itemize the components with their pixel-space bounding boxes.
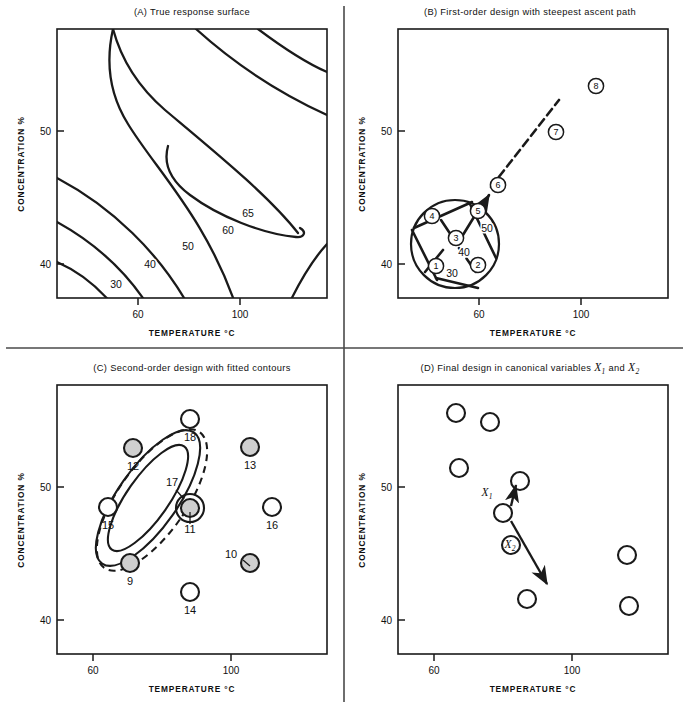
panel-a-title: (A) True response surface: [134, 7, 250, 17]
panel-c-yaxis-label: CONCENTRATION %: [16, 472, 26, 567]
panel-b-contour-label-30: 30: [446, 267, 458, 279]
panel-c-point-12: 12: [124, 439, 142, 472]
panel-c-point-13: 13: [241, 438, 259, 471]
figure-svg: (A) True response surface 50 40: [0, 0, 689, 708]
panel-b-contour-label-50: 50: [481, 222, 493, 234]
panel-b-point-6-label: 6: [495, 180, 500, 190]
panel-d-label-x2-sub: 2: [512, 544, 516, 553]
panel-b-xticklabel-60: 60: [473, 309, 485, 320]
panel-d-xaxis-label: TEMPERATURE °C: [490, 684, 577, 694]
panel-b-plot-frame: [398, 29, 668, 298]
panel-d-points: [447, 404, 638, 615]
panel-d-label-x1: X1: [481, 486, 493, 501]
panel-d-title-x2-sub: 2: [635, 367, 639, 376]
panel-c-point-11: 11: [181, 499, 199, 535]
panel-b-contour-label-40: 40: [458, 246, 470, 258]
panel-b-point-1-label: 1: [433, 261, 438, 271]
panel-d-yticklabel-50: 50: [381, 482, 393, 493]
panel-d-title: (D) Final design in canonical variables …: [420, 361, 639, 376]
panel-c-point-16: 16: [263, 498, 281, 531]
panel-c-point-17-label: 17: [166, 476, 178, 488]
panel-c-point-15: 15: [99, 498, 117, 531]
panel-b-point-3: 3: [448, 230, 463, 245]
panel-c-point-18-label: 18: [184, 431, 196, 443]
panel-c-point-10: 10: [225, 548, 259, 572]
panel-a-contour-label-40: 40: [144, 258, 156, 270]
panel-b-yticklabel-50: 50: [381, 126, 393, 137]
panel-c-xticklabel-100: 100: [223, 665, 240, 676]
panel-c-xticklabel-60: 60: [87, 665, 99, 676]
panel-c: (C) Second-order design with fitted cont…: [16, 363, 327, 694]
panel-d-title-and: and: [606, 363, 628, 373]
panel-d-point-1: [447, 404, 465, 422]
panel-c-point-14-label: 14: [184, 604, 196, 616]
panel-c-point-10-label: 10: [225, 548, 237, 560]
panel-b-point-5-label: 5: [475, 206, 480, 216]
panel-c-point-9: 9: [121, 554, 139, 587]
panel-b-point-3-label: 3: [453, 233, 458, 243]
panel-b-point-1: 1: [428, 258, 443, 273]
panel-d-point-3: [450, 459, 468, 477]
panel-a-contour-label-60: 60: [222, 224, 234, 236]
panel-a-xticklabel-60: 60: [132, 309, 144, 320]
panel-d-point-5: [494, 504, 512, 522]
panel-b-yaxis-label: CONCENTRATION %: [357, 116, 367, 211]
panel-a-xticklabel-100: 100: [232, 309, 249, 320]
panel-c-points: 18 12 13 15 16 9: [99, 410, 281, 616]
panel-b-point-6: 6: [490, 177, 505, 192]
panel-d-xticklabel-60: 60: [428, 665, 440, 676]
panel-b-point-5: 5: [470, 203, 485, 218]
panel-a-yticklabel-50: 50: [40, 126, 52, 137]
panel-a: (A) True response surface 50 40: [16, 7, 327, 338]
panel-b-point-8-label: 8: [593, 81, 598, 91]
panel-b-points: 1 2 3 4 5 6 7: [424, 78, 603, 273]
panel-d-xticklabel-100: 100: [564, 665, 581, 676]
panel-c-point-15-label: 15: [102, 519, 114, 531]
panel-a-plot-frame: [57, 29, 327, 298]
panel-c-yticklabel-40: 40: [40, 615, 52, 626]
panel-d-point-8: [518, 590, 536, 608]
panel-d-point-7: [618, 546, 636, 564]
panel-d: (D) Final design in canonical variables …: [357, 361, 668, 694]
panel-c-xaxis-label: TEMPERATURE °C: [149, 684, 236, 694]
panel-c-point-9-label: 9: [127, 575, 133, 587]
panel-b-point-7-label: 7: [553, 127, 558, 137]
panel-c-point-11-label: 11: [184, 523, 195, 535]
panel-c-yticklabel-50: 50: [40, 482, 52, 493]
panel-d-label-x1-sub: 1: [489, 492, 493, 501]
panel-b-point-2: 2: [470, 257, 485, 272]
panel-b-xticklabel-100: 100: [573, 309, 590, 320]
panel-d-yaxis-label: CONCENTRATION %: [357, 472, 367, 567]
panel-c-point-16-label: 16: [266, 519, 278, 531]
panel-a-contours: [57, 29, 327, 312]
panel-b-ascent-path: [491, 100, 559, 187]
panel-a-xaxis-label: TEMPERATURE °C: [149, 328, 236, 338]
panel-b: (B) First-order design with steepest asc…: [357, 7, 668, 338]
panel-c-point-18: 18: [181, 410, 199, 443]
panel-b-yticklabel-40: 40: [381, 259, 393, 270]
panel-d-point-4: [511, 472, 529, 490]
panel-b-point-4: 4: [424, 208, 439, 223]
panel-b-point-2-label: 2: [475, 260, 480, 270]
panel-b-xaxis-label: TEMPERATURE °C: [490, 328, 577, 338]
panel-b-point-4-label: 4: [429, 211, 434, 221]
panel-a-yaxis-label: CONCENTRATION %: [16, 116, 26, 211]
panel-c-point-13-label: 13: [244, 459, 256, 471]
panel-c-title: (C) Second-order design with fitted cont…: [93, 363, 290, 373]
panel-a-contour-label-50: 50: [182, 240, 194, 252]
panel-a-contour-label-30: 30: [110, 278, 122, 290]
panel-b-point-7: 7: [548, 124, 563, 139]
panel-b-point-8: 8: [588, 78, 603, 93]
panel-b-title: (B) First-order design with steepest asc…: [424, 7, 636, 17]
panel-d-point-2: [481, 413, 499, 431]
panel-a-yticklabel-40: 40: [40, 259, 52, 270]
panel-c-point-14: 14: [181, 583, 199, 616]
figure-root: (A) True response surface 50 40: [0, 0, 689, 708]
panel-a-contour-label-65: 65: [242, 207, 254, 219]
panel-c-point-12-label: 12: [127, 460, 139, 472]
panel-d-yticklabel-40: 40: [381, 615, 393, 626]
panel-d-point-9: [620, 597, 638, 615]
panel-d-title-pre: (D) Final design in canonical variables: [420, 363, 594, 373]
